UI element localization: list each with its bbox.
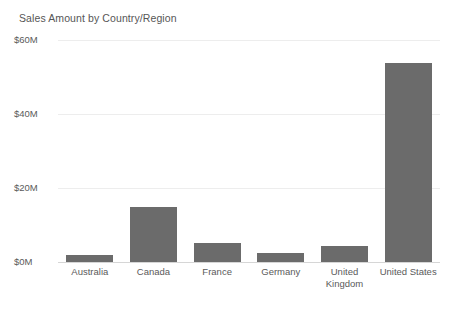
bar-rect[interactable] [66, 255, 113, 262]
bar-rect[interactable] [257, 253, 304, 262]
x-axis-tick-label-line: Kingdom [307, 278, 383, 290]
bar-france[interactable] [194, 40, 241, 262]
bars-layer [58, 40, 440, 262]
x-axis-tick-label: United States [370, 266, 446, 278]
bar-canada[interactable] [130, 40, 177, 262]
gridline-0M [58, 262, 440, 263]
bar-rect[interactable] [321, 246, 368, 262]
y-axis-tick-label: $40M [14, 108, 54, 119]
y-axis-tick-label: $60M [14, 34, 54, 45]
y-axis-tick-label: $0M [14, 256, 54, 267]
bar-germany[interactable] [257, 40, 304, 262]
bar-australia[interactable] [66, 40, 113, 262]
chart-card: Sales Amount by Country/Region $0M$20M$4… [0, 0, 466, 314]
bar-rect[interactable] [385, 63, 432, 262]
chart-title: Sales Amount by Country/Region [19, 12, 177, 24]
y-axis-tick-label: $20M [14, 182, 54, 193]
bar-rect[interactable] [130, 207, 177, 262]
x-axis: AustraliaCanadaFranceGermanyUnitedKingdo… [58, 266, 440, 310]
bar-united-states[interactable] [385, 40, 432, 262]
bar-united-kingdom[interactable] [321, 40, 368, 262]
bar-rect[interactable] [194, 243, 241, 262]
x-axis-tick-label-line: United States [370, 266, 446, 278]
